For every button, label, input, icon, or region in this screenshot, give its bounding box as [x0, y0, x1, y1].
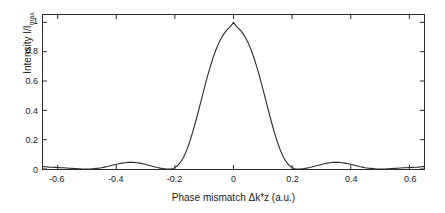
x-tick-label: 0.2 — [286, 174, 299, 184]
y-axis-title-main: Intensity I/I — [22, 25, 33, 73]
x-tick-label: 0.4 — [345, 174, 358, 184]
x-axis-title: Phase mismatch Δk*z (a.u.) — [42, 192, 425, 203]
figure-canvas: -0.6-0.4-0.200.20.40.6 00.20.40.60.81 Ph… — [0, 0, 445, 213]
x-tick-label: -0.6 — [49, 174, 65, 184]
x-tick-label: -0.4 — [108, 174, 124, 184]
x-tick-label: 0 — [231, 174, 236, 184]
tick-marks-group — [43, 15, 424, 169]
y-axis-title-subscript: max — [28, 12, 35, 25]
y-axis-title: Intensity I/Imax — [22, 12, 33, 74]
y-tick-label: 0 — [16, 165, 38, 175]
y-axis-title-wrapper: Intensity I/Imax — [17, 0, 31, 121]
x-tick-label: -0.2 — [167, 174, 183, 184]
y-tick-label: 0.2 — [16, 135, 38, 145]
x-tick-label: 0.6 — [404, 174, 417, 184]
data-curve-sinc-squared — [43, 22, 424, 169]
plot-axes-box — [42, 14, 425, 170]
plot-svg — [43, 15, 424, 169]
